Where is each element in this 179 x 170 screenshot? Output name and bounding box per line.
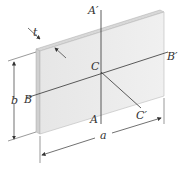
label-B-prime-text: B′ xyxy=(166,50,178,63)
label-t: t xyxy=(33,26,38,39)
label-b: b xyxy=(11,94,18,107)
plate-diagram: t b a A′ A B B′ C C′ xyxy=(0,0,179,170)
label-a: a xyxy=(100,129,107,142)
b-ext-top xyxy=(8,52,36,61)
a-dimension xyxy=(42,138,95,155)
label-C-prime: C′ xyxy=(136,109,147,122)
label-C: C xyxy=(91,60,100,73)
label-B: B xyxy=(23,93,32,106)
plate-left-edge xyxy=(36,49,40,134)
label-A-prime: A′ xyxy=(87,4,99,17)
b-ext-bottom xyxy=(8,132,36,141)
label-A: A xyxy=(89,113,98,126)
